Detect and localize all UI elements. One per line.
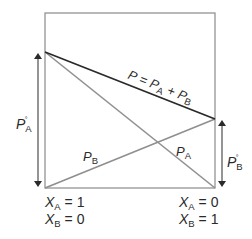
pb-pure-label: PB° [227,151,239,173]
xa-left-value: = 1 [65,194,85,210]
xb-right-value: = 1 [199,211,219,227]
pa-subscript: A [185,150,191,161]
xa-left-sub: A [54,201,60,212]
pb-pure-symbol: P [227,154,236,170]
pb-pure-subscript: B [236,161,242,172]
pa-pure-subscript: A [25,123,31,134]
pa-symbol: P [176,144,185,159]
pb-pure-superscript: ° [236,154,239,161]
partial-b-label: PB [83,150,98,167]
xb-left-sub: B [54,218,60,229]
pb-symbol: P [83,149,92,164]
partial-a-label: PA [176,145,191,162]
xa-right-var: X [179,194,188,210]
xb-right-var: X [179,211,188,227]
xb-right-sub: B [188,218,194,229]
pa-pure-label: PA° [16,113,28,135]
right-composition-xb: XB = 1 [179,213,218,230]
xb-left-var: X [45,211,54,227]
xa-right-sub: A [188,201,194,212]
xa-right-value: = 0 [199,194,219,210]
xa-left-var: X [45,194,54,210]
left-composition-xb: XB = 0 [45,213,84,230]
pa-pure-symbol: P [16,116,25,132]
pb-subscript: B [92,155,98,166]
xb-left-value: = 0 [65,211,85,227]
pa-pure-superscript: ° [25,116,28,123]
